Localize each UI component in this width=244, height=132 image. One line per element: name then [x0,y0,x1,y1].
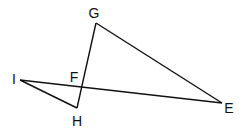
label-point-g: G [89,6,100,20]
geometry-diagram: G I F H E [0,0,244,132]
label-point-e: E [224,101,233,115]
segment-gh [77,23,96,108]
label-point-i: I [12,72,16,86]
label-point-h: H [72,114,82,128]
segment-ih [20,80,77,108]
label-point-f: F [70,70,79,84]
diagram-lines [0,0,244,132]
